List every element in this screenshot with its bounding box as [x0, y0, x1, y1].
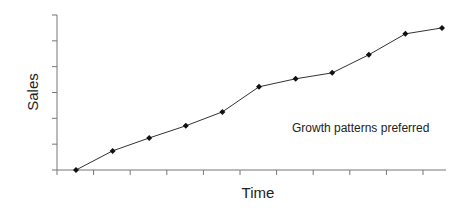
data-point-marker — [219, 109, 225, 115]
data-point-marker — [73, 167, 79, 173]
data-point-marker — [256, 84, 262, 90]
data-point-marker — [293, 76, 299, 82]
data-point-marker — [402, 31, 408, 37]
data-point-marker — [439, 25, 445, 31]
sales-line — [76, 28, 442, 170]
x-axis-label: Time — [242, 184, 275, 201]
line-chart — [0, 0, 470, 215]
data-point-marker — [183, 123, 189, 129]
chart-annotation: Growth patterns preferred — [292, 121, 429, 135]
sales-series — [73, 25, 445, 173]
data-point-marker — [366, 52, 372, 58]
data-point-marker — [110, 148, 116, 154]
data-point-marker — [146, 135, 152, 141]
data-point-marker — [329, 70, 335, 76]
y-axis-label: Sales — [24, 73, 41, 111]
